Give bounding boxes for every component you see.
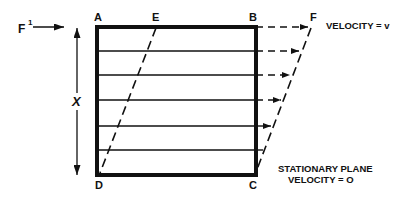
stationary-plane-label: STATIONARY PLANE — [278, 163, 373, 174]
corner-label-b: B — [249, 11, 257, 23]
corner-label-d: D — [95, 179, 103, 191]
corner-label-e: E — [152, 11, 159, 23]
velocity-arrows — [256, 27, 308, 150]
corner-label-c: C — [249, 179, 257, 191]
corner-label-a: A — [94, 11, 102, 23]
distance-label: X — [71, 94, 82, 109]
corner-label-f: F — [310, 11, 317, 23]
shear-line-fc — [256, 28, 311, 172]
fluid-block — [97, 27, 256, 175]
stationary-plane-velocity-label: VELOCITY = O — [288, 174, 354, 185]
force-label: F — [18, 22, 25, 36]
moving-plane-velocity-label: VELOCITY = v — [326, 20, 390, 31]
shear-diagram: F 1 X A E B F D C VELOCITY = v STATIONAR… — [0, 0, 414, 198]
force-superscript: 1 — [28, 18, 33, 27]
fluid-layers — [97, 51, 256, 150]
